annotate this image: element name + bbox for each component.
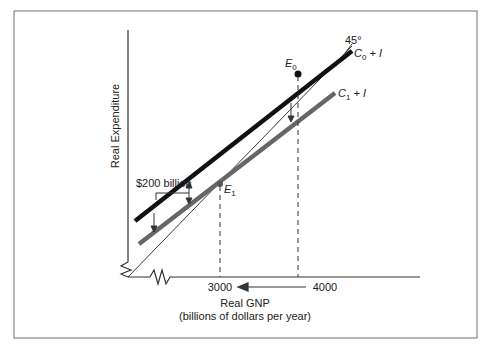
x-axis-sublabel: (billions of dollars per year) bbox=[179, 310, 311, 322]
point-e1 bbox=[217, 181, 223, 187]
y-axis-label: Real Expenditure bbox=[109, 84, 121, 168]
label-e1: E1 bbox=[224, 183, 236, 198]
label-45-degree: 45° bbox=[345, 34, 362, 46]
y-axis bbox=[121, 30, 131, 277]
line-c1-plus-i bbox=[139, 93, 335, 244]
label-e0: E0 bbox=[285, 57, 297, 72]
line-c0-plus-i bbox=[135, 51, 352, 221]
x-tick-3000: 3000 bbox=[208, 281, 232, 293]
x-axis bbox=[128, 270, 420, 284]
shift-arrow-right bbox=[288, 103, 294, 122]
line-45-degree bbox=[128, 46, 352, 277]
label-c1-plus-i: C1 + I bbox=[338, 87, 366, 102]
x-axis-label: Real GNP bbox=[220, 297, 270, 309]
x-tick-4000: 4000 bbox=[313, 281, 337, 293]
label-shift-amount: $200 billion bbox=[136, 177, 192, 189]
label-c0-plus-i: C0 + I bbox=[354, 47, 382, 62]
keynesian-cross-diagram: 45° C0 + I C1 + I E0 E1 $200 billion 300… bbox=[0, 0, 487, 349]
gnp-decrease-arrow bbox=[238, 283, 306, 291]
